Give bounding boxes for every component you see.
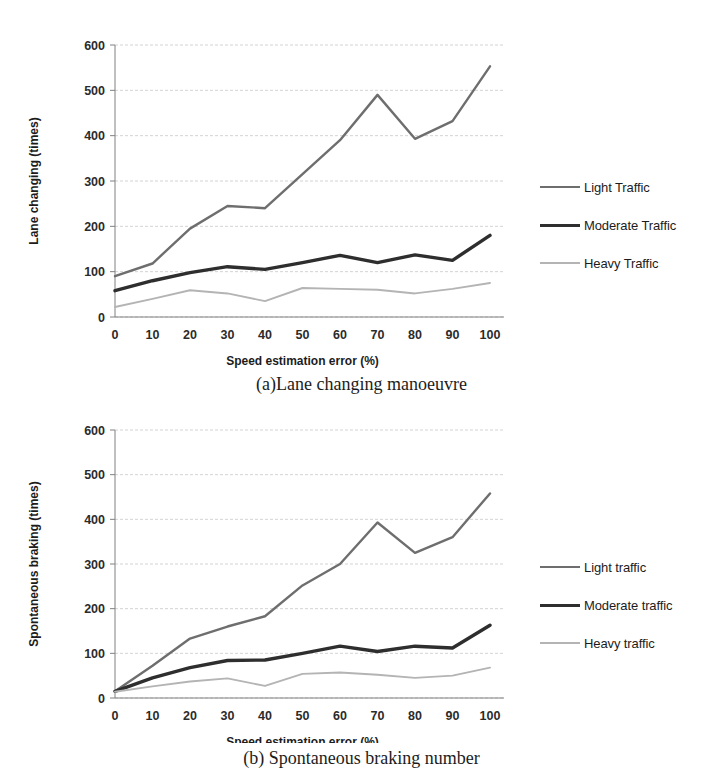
legend-label-light: Light traffic [584, 560, 646, 575]
y-tick-label: 0 [98, 311, 105, 325]
chart-b-plot: 0100200300400500600010203040506070809010… [0, 410, 540, 743]
x-tick-label: 0 [112, 328, 119, 342]
figure-panel-a: 0100200300400500600010203040506070809010… [0, 0, 723, 410]
x-tick-label: 10 [146, 709, 160, 723]
legend-label-moderate: Moderate traffic [584, 598, 672, 613]
series-line-light [115, 493, 490, 691]
legend-line-swatch-moderate-icon [540, 224, 580, 227]
legend-item-moderate[interactable]: Moderate Traffic [540, 206, 676, 244]
y-tick-label: 200 [84, 602, 105, 616]
y-tick-label: 400 [84, 129, 105, 143]
chart-a-plot: 0100200300400500600010203040506070809010… [0, 0, 540, 372]
legend-label-heavy: Heavy traffic [584, 636, 655, 651]
legend-label-light: Light Traffic [584, 180, 650, 195]
x-tick-label: 60 [333, 709, 347, 723]
x-tick-label: 20 [183, 328, 197, 342]
x-tick-label: 90 [446, 328, 460, 342]
x-tick-label: 50 [296, 709, 310, 723]
x-tick-label: 30 [221, 328, 235, 342]
legend-item-moderate[interactable]: Moderate traffic [540, 586, 672, 624]
x-tick-label: 100 [480, 709, 501, 723]
x-tick-label: 40 [258, 709, 272, 723]
y-tick-label: 400 [84, 513, 105, 527]
x-axis-title: Speed estimation error (%) [226, 354, 379, 368]
x-tick-label: 70 [371, 328, 385, 342]
series-line-light [115, 66, 490, 276]
x-tick-label: 70 [371, 709, 385, 723]
x-tick-label: 90 [446, 709, 460, 723]
legend-line-swatch-moderate-icon [540, 604, 580, 607]
y-tick-label: 100 [84, 647, 105, 661]
x-axis-title: Speed estimation error (%) [226, 735, 379, 743]
series-line-moderate [115, 625, 490, 691]
x-tick-label: 0 [112, 709, 119, 723]
y-axis-title: Spontaneous braking (times) [27, 481, 41, 646]
y-tick-label: 600 [84, 424, 105, 438]
chart-a-container: 0100200300400500600010203040506070809010… [0, 0, 723, 372]
legend-item-heavy[interactable]: Heavy Traffic [540, 244, 676, 282]
series-line-moderate [115, 235, 490, 290]
x-tick-label: 40 [258, 328, 272, 342]
chart-a-svg: 0100200300400500600010203040506070809010… [0, 0, 540, 372]
legend-item-light[interactable]: Light traffic [540, 548, 672, 586]
x-tick-label: 20 [183, 709, 197, 723]
legend-line-swatch-heavy-icon [540, 642, 580, 644]
series-line-heavy [115, 283, 490, 307]
y-tick-label: 300 [84, 175, 105, 189]
chart-a-legend: Light Traffic Moderate Traffic Heavy Tra… [540, 168, 676, 282]
figure-panel-b: 0100200300400500600010203040506070809010… [0, 410, 723, 781]
x-tick-label: 50 [296, 328, 310, 342]
figure-caption-b: (b) Spontaneous braking number [0, 748, 723, 769]
x-tick-label: 80 [408, 328, 422, 342]
figure-caption-a: (a)Lane changing manoeuvre [0, 374, 723, 395]
legend-line-swatch-light-icon [540, 566, 580, 568]
y-tick-label: 0 [98, 692, 105, 706]
x-tick-label: 10 [146, 328, 160, 342]
y-tick-label: 600 [84, 39, 105, 53]
legend-line-swatch-heavy-icon [540, 262, 580, 264]
y-tick-label: 500 [84, 84, 105, 98]
chart-b-container: 0100200300400500600010203040506070809010… [0, 410, 723, 743]
legend-line-swatch-light-icon [540, 186, 580, 188]
y-tick-label: 300 [84, 558, 105, 572]
legend-item-light[interactable]: Light Traffic [540, 168, 676, 206]
x-tick-label: 30 [221, 709, 235, 723]
x-tick-label: 60 [333, 328, 347, 342]
y-tick-label: 500 [84, 468, 105, 482]
legend-item-heavy[interactable]: Heavy traffic [540, 624, 672, 662]
chart-b-svg: 0100200300400500600010203040506070809010… [0, 410, 540, 743]
legend-label-heavy: Heavy Traffic [584, 256, 658, 271]
legend-label-moderate: Moderate Traffic [584, 218, 676, 233]
y-tick-label: 100 [84, 265, 105, 279]
chart-b-legend: Light traffic Moderate traffic Heavy tra… [540, 548, 672, 662]
x-tick-label: 80 [408, 709, 422, 723]
y-axis-title: Lane changing (times) [27, 117, 41, 244]
x-tick-label: 100 [480, 328, 501, 342]
y-tick-label: 200 [84, 220, 105, 234]
